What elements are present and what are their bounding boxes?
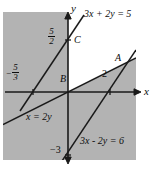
graph-canvas [0,0,154,173]
tick-label-y-5-over-2-denominator: 2 [48,37,55,46]
point-label-C: C [74,35,81,45]
line-label-3x-minus-2y-eq-6: 3x - 2y = 6 [80,136,124,146]
x-axis-arrowhead [134,89,141,95]
y-axis-label: y [71,3,76,14]
coordinate-graph-figure: y x 3x + 2y = 5 x = 2y 3x - 2y = 6 A B C… [0,0,154,173]
tick-label-y-neg-3: −3 [50,145,61,155]
point-label-B: B [60,74,66,84]
line-label-x-eq-2y: x = 2y [26,112,52,122]
tick-label-x-neg-5-over-3-numerator: 5 [12,63,19,72]
tick-label-y-5-over-2: 5 2 [47,27,55,46]
point-label-A: A [115,53,121,63]
x-axis-label: x [144,86,149,97]
y-axis-bottom-arrowhead [65,157,71,164]
tick-label-x-neg-5-over-3-denominator: 3 [12,73,19,82]
tick-label-y-5-over-2-numerator: 5 [48,27,55,36]
tick-label-x-neg-5-over-3-sign: − [6,68,11,78]
tick-label-x-neg-5-over-3: − 5 3 [6,63,19,82]
tick-label-x-2: 2 [102,69,107,79]
line-label-3x-plus-2y-eq-5: 3x + 2y = 5 [84,9,131,19]
